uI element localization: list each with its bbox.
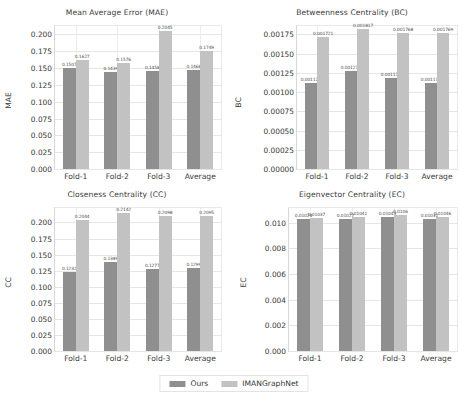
y-axis-tick-label: 0.025: [31, 330, 52, 339]
bar-ec-fold-2-imangraphnet: 0.01041: [352, 217, 365, 351]
bar-value-label: 0.001769: [433, 27, 453, 32]
y-axis-tick-label: 0.200: [31, 30, 52, 39]
x-axis-tick-label: Average: [421, 172, 452, 181]
bar-value-label: 0.0106: [393, 209, 408, 214]
gridline: [55, 169, 221, 170]
x-axis-tick-label: Fold-1: [305, 172, 328, 181]
gridline: [289, 351, 457, 352]
bar-value-label: 0.1232: [62, 266, 77, 271]
bar-value-label: 0.2045: [158, 25, 173, 30]
bar-bc-fold-3-imangraphnet: 0.001768: [397, 33, 409, 169]
bar-value-label: 0.1507: [62, 62, 77, 67]
bar-ec-fold-3-ours: 0.01043: [381, 217, 394, 351]
panel-mae: Mean Average Error (MAE) MAE 0.0000.0250…: [6, 8, 228, 193]
bar-bc-fold-1-ours: 0.001121: [305, 83, 317, 169]
bar-cc-fold-1-imangraphnet: 0.2044: [76, 220, 89, 351]
panel-cc: Closeness Centrality (CC) CC 0.0000.0250…: [6, 190, 228, 375]
panel-mae-title: Mean Average Error (MAE): [6, 8, 228, 17]
bar-value-label: 0.2142: [116, 207, 131, 212]
y-axis-tick-label: 0.000: [265, 347, 286, 356]
bar-bc-average-imangraphnet: 0.001769: [437, 33, 449, 169]
bar-mae-average-ours: 0.1468: [187, 70, 200, 169]
y-axis-tick-label: 0.075: [31, 298, 52, 307]
bar-mae-fold-2-imangraphnet: 0.1576: [117, 63, 130, 169]
y-axis-tick-label: 0.100: [31, 282, 52, 291]
gridline: [55, 34, 221, 35]
y-axis-tick-label: 0.010: [265, 218, 286, 227]
x-axis-tick-label: Average: [185, 354, 216, 363]
bar-cc-average-ours: 0.1299: [187, 268, 200, 351]
panel-bc-plot: 0.000000.000250.000500.000750.001000.001…: [296, 25, 458, 170]
x-axis-tick-label: Fold-2: [106, 354, 129, 363]
bar-value-label: 0.001768: [393, 27, 413, 32]
y-axis-tick-label: 0.100: [31, 97, 52, 106]
x-axis-tick-label: Fold-2: [340, 354, 363, 363]
x-axis-tick-label: Fold-1: [64, 172, 87, 181]
bar-ec-average-ours: 0.01031: [423, 219, 436, 351]
bar-ec-average-imangraphnet: 0.01046: [436, 217, 449, 351]
panel-bc-ylabel: BC: [234, 97, 243, 107]
bar-value-label: 0.2098: [158, 210, 173, 215]
bar-ec-fold-1-ours: 0.01024: [297, 219, 310, 351]
x-axis-tick-label: Fold-1: [298, 354, 321, 363]
y-axis-tick-label: 0.006: [265, 269, 286, 278]
bar-bc-fold-1-imangraphnet: 0.001721: [317, 37, 329, 169]
bar-value-label: 0.01041: [350, 211, 367, 216]
bar-ec-fold-2-ours: 0.01027: [339, 219, 352, 351]
bar-value-label: 0.001721: [313, 31, 333, 36]
bar-value-label: 0.1627: [75, 54, 90, 59]
panel-cc-title: Closeness Centrality (CC): [6, 190, 228, 199]
bar-value-label: 0.01037: [308, 212, 325, 217]
bar-bc-average-ours: 0.001115: [425, 83, 437, 169]
x-axis-tick-label: Fold-2: [106, 172, 129, 181]
panel-cc-ylabel: CC: [4, 277, 13, 288]
bar-mae-average-imangraphnet: 0.1749: [200, 51, 213, 169]
x-axis-tick-label: Fold-3: [385, 172, 408, 181]
bar-mae-fold-2-ours: 0.1439: [104, 72, 117, 169]
y-axis-tick-label: 0.008: [265, 244, 286, 253]
bar-value-label: 0.1439: [103, 66, 118, 71]
bar-value-label: 0.01046: [434, 211, 451, 216]
y-axis-tick-label: 0.00025: [263, 145, 294, 154]
x-axis-tick-label: Average: [185, 172, 216, 181]
bar-bc-fold-2-imangraphnet: 0.001817: [357, 29, 369, 169]
gridline: [55, 51, 221, 52]
panel-bc-title: Betweenness Centrality (BC): [240, 8, 464, 17]
bar-value-label: 0.1389: [103, 256, 118, 261]
y-axis-tick-label: 0.175: [31, 47, 52, 56]
gridline: [297, 169, 457, 170]
panel-ec-title: Eigenvector Centrality (EC): [240, 190, 464, 199]
legend-swatch-ours: [169, 381, 185, 387]
bar-value-label: 0.1749: [199, 45, 214, 50]
bar-mae-fold-3-imangraphnet: 0.2045: [159, 31, 172, 169]
x-axis-tick-label: Fold-3: [147, 172, 170, 181]
bar-mae-fold-1-imangraphnet: 0.1627: [76, 60, 89, 169]
bar-cc-fold-1-ours: 0.1232: [63, 272, 76, 351]
bar-value-label: 0.2095: [199, 210, 214, 215]
bar-value-label: 0.1576: [116, 57, 131, 62]
bar-bc-fold-3-ours: 0.001179: [385, 78, 397, 169]
y-axis-tick-label: 0.002: [265, 321, 286, 330]
bar-cc-fold-2-ours: 0.1389: [104, 262, 117, 351]
y-axis-tick-label: 0.00100: [263, 88, 294, 97]
y-axis-tick-label: 0.000: [31, 347, 52, 356]
y-axis-tick-label: 0.150: [31, 250, 52, 259]
x-axis-tick-label: Fold-2: [345, 172, 368, 181]
panel-bc: Betweenness Centrality (BC) BC 0.000000.…: [240, 8, 464, 193]
bar-value-label: 0.1299: [186, 262, 201, 267]
panel-ec: Eigenvector Centrality (EC) EC 0.0000.00…: [240, 190, 464, 375]
gridline: [55, 351, 221, 352]
figure-canvas: Mean Average Error (MAE) MAE 0.0000.0250…: [0, 0, 468, 405]
bar-value-label: 0.1277: [145, 263, 160, 268]
y-axis-tick-label: 0.125: [31, 266, 52, 275]
y-axis-tick-label: 0.150: [31, 64, 52, 73]
legend-label-imangraphnet: IMANGraphNet: [242, 379, 298, 388]
y-axis-tick-label: 0.050: [31, 314, 52, 323]
y-axis-tick-label: 0.075: [31, 114, 52, 123]
y-axis-tick-label: 0.00125: [263, 68, 294, 77]
bar-value-label: 0.2044: [75, 214, 90, 219]
x-axis-tick-label: Fold-1: [64, 354, 87, 363]
panel-ec-plot: 0.0000.0020.0040.0060.0080.0100.010240.0…: [288, 207, 458, 352]
bar-cc-fold-3-imangraphnet: 0.2098: [159, 216, 172, 351]
panel-cc-plot: 0.0000.0250.0500.0750.1000.1250.1500.175…: [54, 207, 222, 352]
